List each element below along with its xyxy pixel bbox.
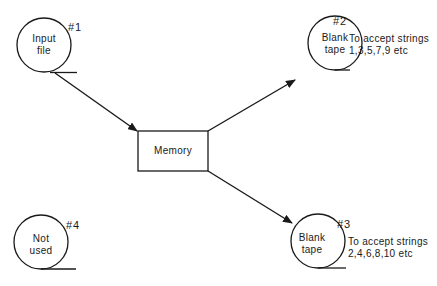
tape-2-note-line1: To accept strings (349, 33, 429, 45)
tape-3-number: #3 (337, 218, 351, 230)
tape-1-label-line1: Input (24, 33, 64, 45)
tape-3-label-line2: tape (292, 244, 332, 256)
tape-4-label: Not used (21, 233, 61, 257)
tape-3-note-line2: 2,4,6,8,10 etc (348, 248, 428, 260)
tape-2-note: To accept strings 1,3,5,7,9 etc (349, 33, 429, 57)
arrow-memory-to-tape-3 (208, 171, 292, 223)
arrow-input-to-memory (55, 73, 137, 131)
tape-4-number: #4 (66, 219, 80, 231)
tape-4-label-line2: used (21, 245, 61, 257)
tape-3-note-line1: To accept strings (348, 236, 428, 248)
tape-3-note: To accept strings 2,4,6,8,10 etc (348, 236, 428, 260)
tape-4-label-line1: Not (21, 233, 61, 245)
tape-3-label: Blank tape (292, 232, 332, 256)
memory-label: Memory (138, 145, 208, 157)
tape-3-label-line1: Blank (292, 232, 332, 244)
tape-2-note-line2: 1,3,5,7,9 etc (349, 45, 429, 57)
tape-2-number: #2 (333, 15, 347, 27)
arrow-memory-to-tape-2 (208, 80, 295, 131)
tape-1-label: Input file (24, 33, 64, 57)
tape-1-label-line2: file (24, 45, 64, 57)
tape-1-number: #1 (68, 21, 82, 33)
